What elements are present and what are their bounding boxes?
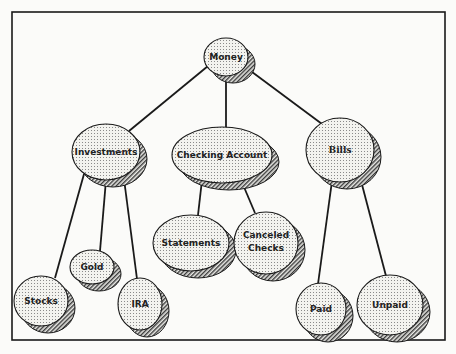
node-label: Investments [75, 147, 138, 157]
edge-investments-gold [100, 180, 106, 251]
node-label: Checking Account [177, 150, 268, 160]
edge-money-bills [244, 66, 322, 124]
node-unpaid[interactable]: Unpaid [357, 275, 430, 342]
node-label: Gold [80, 262, 103, 272]
node-bills[interactable]: Bills [306, 118, 381, 189]
edge-investments-ira [124, 179, 137, 279]
node-label: Bills [329, 145, 352, 155]
edge-money-investments [129, 66, 208, 131]
edge-bills-unpaid [360, 177, 386, 276]
nodes-layer: MoneyInvestmentsChecking AccountBillsSta… [14, 38, 430, 342]
node-gold[interactable]: Gold [70, 250, 121, 291]
node-money[interactable]: Money [204, 38, 255, 83]
node-label: Unpaid [372, 300, 408, 310]
node-checking[interactable]: Checking Account [172, 127, 279, 190]
node-label: Statements [162, 238, 221, 248]
node-statements[interactable]: Statements [153, 215, 236, 278]
node-paid[interactable]: Paid [296, 283, 353, 342]
node-ira[interactable]: IRA [118, 278, 169, 337]
node-label: Stocks [24, 296, 58, 306]
node-label: Canceled [243, 230, 289, 240]
node-label: Paid [310, 304, 332, 314]
node-stocks[interactable]: Stocks [14, 276, 75, 333]
node-label: Money [209, 52, 243, 62]
node-label: IRA [131, 299, 148, 309]
node-label: Checks [248, 243, 284, 253]
money-hierarchy-diagram: MoneyInvestmentsChecking AccountBillsSta… [0, 0, 456, 354]
edge-bills-paid [318, 181, 332, 284]
node-canceled[interactable]: CanceledChecks [234, 212, 305, 281]
